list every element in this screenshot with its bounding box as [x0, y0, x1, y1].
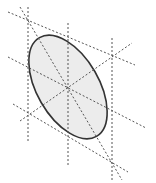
- ellipse-diagram: [0, 0, 156, 183]
- major-axis: [20, 7, 122, 180]
